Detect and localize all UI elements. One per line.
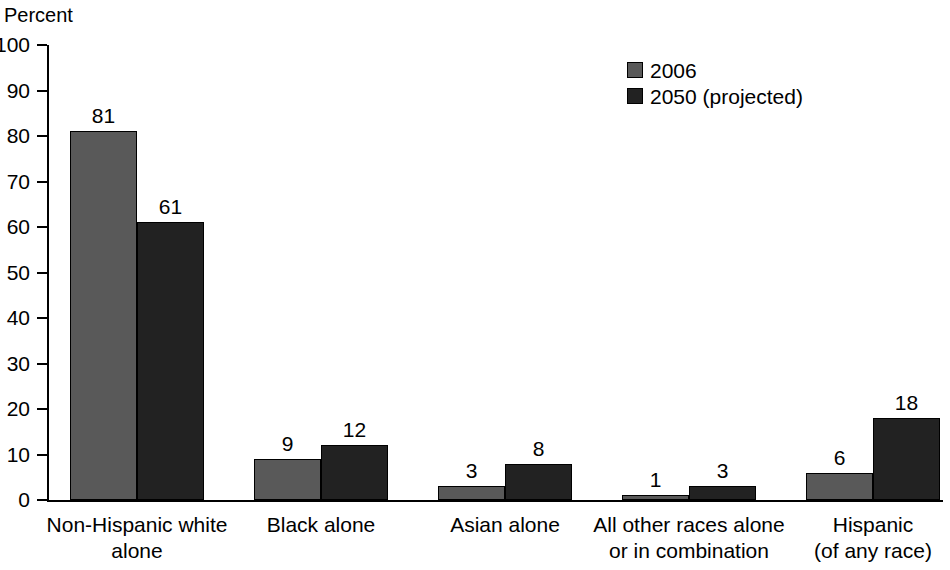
bar: [622, 495, 689, 500]
bar-value-label: 1: [622, 469, 689, 490]
legend-item: 2006: [627, 58, 803, 82]
y-axis-tick-label: 20: [0, 398, 30, 419]
y-axis-tick: [37, 499, 47, 501]
bar: [806, 473, 873, 500]
y-axis-tick: [37, 226, 47, 228]
bar-value-label: 61: [137, 196, 204, 217]
y-axis-tick: [37, 90, 47, 92]
y-axis-tick-label: 10: [0, 444, 30, 465]
bar-value-label: 8: [505, 438, 572, 459]
x-axis-line: [47, 500, 943, 502]
bar: [321, 445, 388, 500]
y-axis-tick: [37, 135, 47, 137]
y-axis-tick-label: 90: [0, 80, 30, 101]
y-axis-tick-label: 40: [0, 307, 30, 328]
bar-value-label: 6: [806, 447, 873, 468]
y-axis-tick: [37, 454, 47, 456]
y-axis-tick: [37, 181, 47, 183]
y-axis-tick: [37, 317, 47, 319]
legend-label: 2050 (projected): [650, 86, 803, 107]
y-axis-title: Percent: [4, 4, 73, 26]
legend-swatch: [627, 62, 643, 78]
bar: [254, 459, 321, 500]
y-axis-tick: [37, 408, 47, 410]
bar: [873, 418, 940, 500]
bar-value-label: 12: [321, 419, 388, 440]
y-axis-tick: [37, 44, 47, 46]
bar: [70, 131, 137, 500]
legend-item: 2050 (projected): [627, 84, 803, 108]
bar: [438, 486, 505, 500]
y-axis-tick-label: 30: [0, 353, 30, 374]
y-axis-tick-label: 50: [0, 262, 30, 283]
x-axis-category-label: Hispanic(of any race): [733, 512, 950, 564]
y-axis-line: [47, 45, 49, 502]
y-axis-tick: [37, 363, 47, 365]
legend-swatch: [627, 88, 643, 104]
bar-chart: Percent 1009080706050403020100 816191238…: [0, 0, 950, 570]
y-axis-tick-label: 0: [0, 489, 30, 510]
bar: [689, 486, 756, 500]
bar: [137, 222, 204, 500]
y-axis-tick-label: 80: [0, 125, 30, 146]
bar-value-label: 9: [254, 433, 321, 454]
y-axis-tick-label: 100: [0, 34, 30, 55]
bar-value-label: 18: [873, 392, 940, 413]
bar-value-label: 3: [438, 460, 505, 481]
bar-value-label: 3: [689, 460, 756, 481]
y-axis-tick-label: 70: [0, 171, 30, 192]
legend-label: 2006: [650, 60, 697, 81]
chart-legend: 20062050 (projected): [627, 58, 803, 110]
y-axis-tick: [37, 272, 47, 274]
bar: [505, 464, 572, 500]
y-axis-tick-label: 60: [0, 216, 30, 237]
bar-value-label: 81: [70, 105, 137, 126]
